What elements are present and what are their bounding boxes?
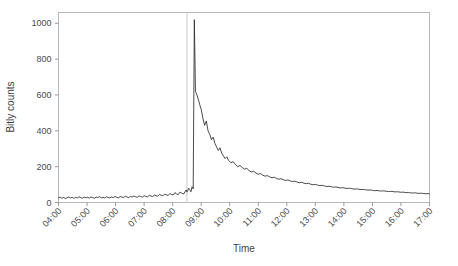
y-tick-label: 600 <box>36 90 51 100</box>
x-tick-label: 13:00 <box>297 206 320 229</box>
x-tick-label: 15:00 <box>354 206 377 229</box>
y-tick-labels: 02004006008001000 <box>31 18 51 207</box>
x-tick-labels: 04:0005:0006:0007:0008:0009:0010:0011:00… <box>40 206 434 229</box>
x-tick-label: 16:00 <box>383 206 406 229</box>
x-tick-label: 06:00 <box>97 206 120 229</box>
x-axis-title: Time <box>233 243 255 254</box>
x-tick-label: 17:00 <box>411 206 434 229</box>
x-tick-label: 09:00 <box>183 206 206 229</box>
y-tick-label: 0 <box>46 198 51 208</box>
series-bitly-counts <box>59 20 430 199</box>
series-line <box>59 20 430 199</box>
x-tick-label: 11:00 <box>241 206 264 229</box>
x-tick-label: 05:00 <box>69 206 92 229</box>
chart-figure: 02004006008001000 04:0005:0006:0007:0008… <box>0 0 458 266</box>
y-tick-label: 1000 <box>31 18 51 28</box>
y-axis-title: Bitly counts <box>5 81 16 132</box>
line-chart: 02004006008001000 04:0005:0006:0007:0008… <box>0 0 458 266</box>
plot-frame <box>59 13 430 203</box>
y-tick-marks <box>55 23 59 202</box>
x-tick-label: 07:00 <box>126 206 149 229</box>
x-tick-label: 14:00 <box>326 206 349 229</box>
x-tick-label: 12:00 <box>269 206 292 229</box>
x-tick-label: 08:00 <box>155 206 178 229</box>
y-tick-label: 400 <box>36 126 51 136</box>
x-tick-label: 10:00 <box>212 206 235 229</box>
x-tick-label: 04:00 <box>40 206 63 229</box>
y-tick-label: 200 <box>36 162 51 172</box>
x-tick-marks <box>59 203 430 207</box>
y-tick-label: 800 <box>36 54 51 64</box>
